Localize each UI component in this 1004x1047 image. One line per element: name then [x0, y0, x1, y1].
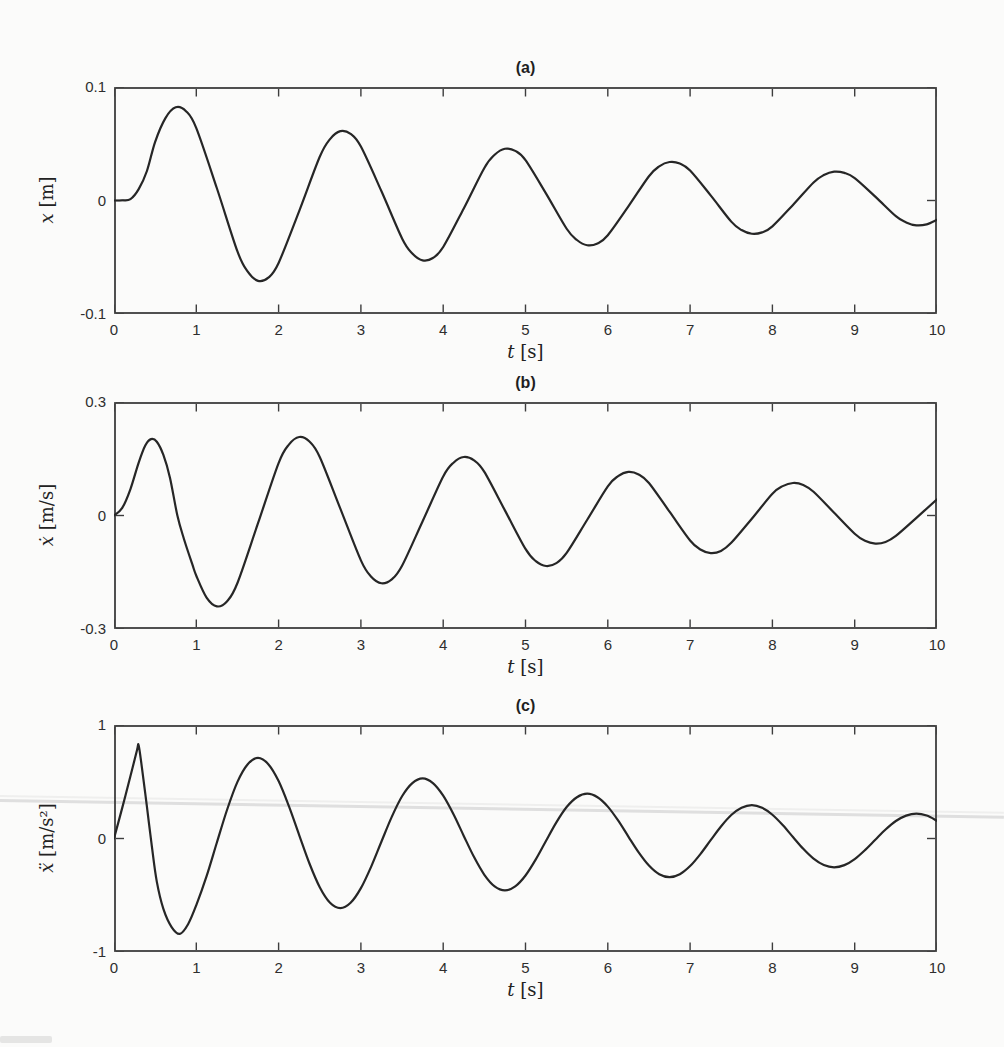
xlabel-variable: t [507, 979, 514, 1000]
subplot-a-title: (a) [114, 58, 937, 78]
curve-path [114, 744, 937, 934]
subplot-c-title: (c) [114, 696, 937, 716]
xlabel-variable: t [507, 341, 514, 362]
curve-path [114, 107, 937, 281]
x-tick-label: 7 [672, 321, 708, 339]
y-tick-label: -1 [0, 943, 106, 961]
x-tick-label: 10 [919, 636, 955, 654]
subplot-b-title: (b) [114, 373, 937, 393]
x-tick-label: 3 [343, 636, 379, 654]
x-tick-label: 1 [178, 959, 214, 977]
x-tick-label: 10 [919, 321, 955, 339]
x-tick-label: 5 [508, 636, 544, 654]
x-tick-label: 3 [343, 959, 379, 977]
y-tick-label: 0 [0, 830, 106, 848]
x-tick-label: 8 [754, 959, 790, 977]
x-tick-label: 8 [754, 636, 790, 654]
plot-canvas [114, 402, 937, 629]
plot-canvas [114, 87, 937, 314]
ylabel-variable: ẍ [36, 863, 57, 873]
x-tick-label: 9 [837, 636, 873, 654]
plot-frame [115, 726, 936, 951]
scan-corner-smudge [0, 1036, 52, 1043]
subplot-a-plot-area [114, 87, 937, 314]
x-tick-label: 0 [96, 959, 132, 977]
y-tick-label: 0 [0, 507, 106, 525]
xlabel-unit: [s] [520, 979, 543, 1000]
subplot-c-plot-area [114, 725, 937, 952]
subplot-b: (b) ẋ [m/s] t [s] 0123456789100.30-0.3 [0, 373, 993, 685]
x-tick-label: 6 [590, 321, 626, 339]
plot-canvas [114, 725, 937, 952]
subplot-c-xlabel: t [s] [114, 979, 937, 1000]
x-tick-label: 9 [837, 959, 873, 977]
x-tick-label: 6 [590, 636, 626, 654]
subplot-a: (a) x [m] t [s] 0123456789100.10-0.1 [0, 58, 993, 370]
x-tick-label: 1 [178, 636, 214, 654]
x-tick-label: 4 [425, 959, 461, 977]
ylabel-variable: x [36, 213, 57, 223]
x-tick-label: 8 [754, 321, 790, 339]
x-tick-label: 1 [178, 321, 214, 339]
x-tick-label: 0 [96, 636, 132, 654]
x-tick-label: 2 [261, 321, 297, 339]
x-tick-label: 2 [261, 959, 297, 977]
x-tick-label: 2 [261, 636, 297, 654]
x-tick-label: 10 [919, 959, 955, 977]
x-tick-label: 6 [590, 959, 626, 977]
subplot-a-xlabel: t [s] [114, 341, 937, 362]
x-tick-label: 4 [425, 321, 461, 339]
y-tick-label: -0.1 [0, 305, 106, 323]
plot-frame [115, 403, 936, 628]
subplot-c: (c) ẍ [m/s²] t [s] 01234567891010-1 [0, 696, 993, 1008]
xlabel-variable: t [507, 656, 514, 677]
x-tick-label: 7 [672, 636, 708, 654]
x-tick-label: 0 [96, 321, 132, 339]
plot-frame [115, 88, 936, 313]
curve-path [114, 437, 937, 607]
x-tick-label: 4 [425, 636, 461, 654]
xlabel-unit: [s] [520, 656, 543, 677]
x-tick-label: 7 [672, 959, 708, 977]
ylabel-variable: ẋ [36, 536, 57, 546]
subplot-b-plot-area [114, 402, 937, 629]
xlabel-unit: [s] [520, 341, 543, 362]
y-tick-label: 0 [0, 192, 106, 210]
x-tick-label: 3 [343, 321, 379, 339]
y-tick-label: 1 [0, 716, 106, 734]
y-tick-label: 0.1 [0, 78, 106, 96]
y-tick-label: -0.3 [0, 620, 106, 638]
x-tick-label: 9 [837, 321, 873, 339]
x-tick-label: 5 [508, 959, 544, 977]
x-tick-label: 5 [508, 321, 544, 339]
subplot-b-xlabel: t [s] [114, 656, 937, 677]
y-tick-label: 0.3 [0, 393, 106, 411]
